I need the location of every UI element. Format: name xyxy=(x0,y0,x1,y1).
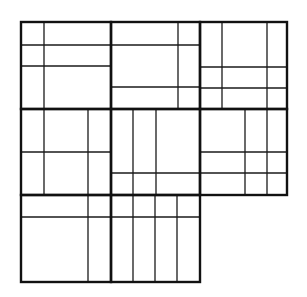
block-top-right xyxy=(200,22,287,109)
block-bottom-left xyxy=(21,195,111,282)
grid-diagram xyxy=(0,0,307,297)
grid-canvas xyxy=(0,0,307,297)
inner-subdivision-lines xyxy=(21,22,287,282)
block-top-center xyxy=(111,22,200,109)
